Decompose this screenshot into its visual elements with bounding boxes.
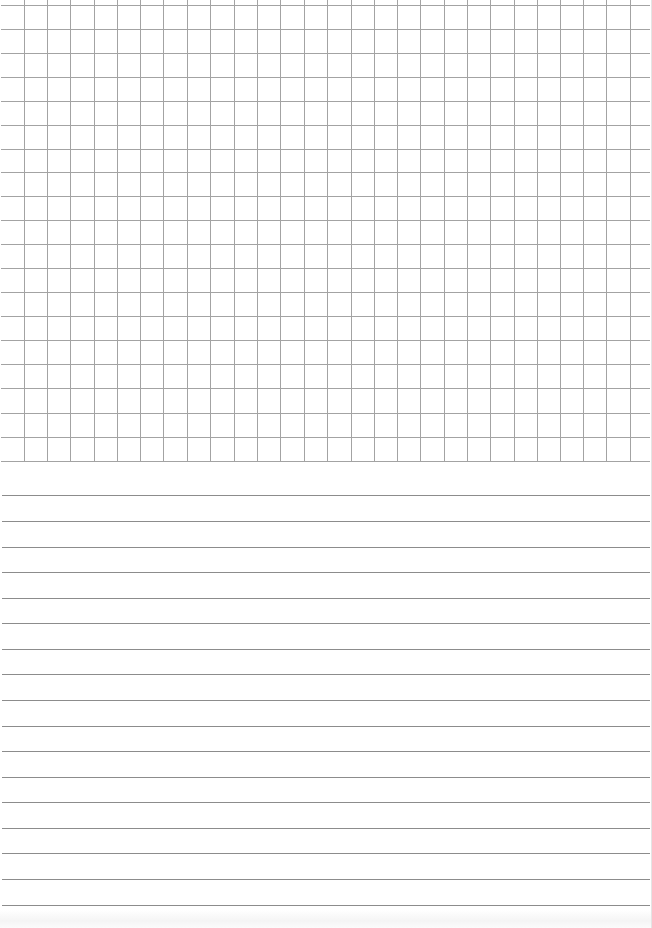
- grid-vertical-line: [24, 0, 25, 462]
- grid-vertical-line: [47, 0, 48, 462]
- grid-horizontal-line: [1, 77, 650, 78]
- grid-horizontal-line: [1, 437, 650, 438]
- ruled-line: [2, 674, 650, 675]
- grid-vertical-line: [304, 0, 305, 462]
- grid-vertical-line: [187, 0, 188, 462]
- grid-vertical-line: [467, 0, 468, 462]
- ruled-line: [2, 802, 650, 803]
- grid-vertical-line: [560, 0, 561, 462]
- grid-vertical-line: [351, 0, 352, 462]
- grid-vertical-line: [234, 0, 235, 462]
- ruled-line: [2, 649, 650, 650]
- grid-vertical-line: [606, 0, 607, 462]
- grid-horizontal-line: [1, 364, 650, 365]
- grid-vertical-line: [140, 0, 141, 462]
- grid-horizontal-line: [1, 196, 650, 197]
- grid-horizontal-line: [1, 220, 650, 221]
- ruled-line: [2, 853, 650, 854]
- grid-vertical-line: [583, 0, 584, 462]
- graph-paper-grid: [0, 0, 652, 462]
- ruled-line: [2, 495, 650, 496]
- ruled-lines-area: [0, 462, 652, 928]
- ruled-line: [2, 547, 650, 548]
- grid-horizontal-line: [1, 244, 650, 245]
- grid-horizontal-line: [1, 125, 650, 126]
- grid-vertical-line: [280, 0, 281, 462]
- ruled-line: [2, 521, 650, 522]
- grid-horizontal-line: [1, 388, 650, 389]
- grid-horizontal-line: [1, 53, 650, 54]
- grid-horizontal-line: [1, 149, 650, 150]
- ruled-line: [2, 572, 650, 573]
- grid-vertical-line: [490, 0, 491, 462]
- grid-horizontal-line: [1, 292, 650, 293]
- notebook-page: [0, 0, 652, 928]
- grid-vertical-line: [327, 0, 328, 462]
- grid-vertical-line: [94, 0, 95, 462]
- ruled-line: [2, 879, 650, 880]
- ruled-line: [2, 700, 650, 701]
- ruled-line: [2, 905, 650, 906]
- grid-vertical-line: [117, 0, 118, 462]
- grid-horizontal-line: [1, 316, 650, 317]
- ruled-line: [2, 598, 650, 599]
- grid-horizontal-line: [1, 5, 650, 6]
- grid-vertical-line: [537, 0, 538, 462]
- grid-vertical-line: [397, 0, 398, 462]
- ruled-line: [2, 726, 650, 727]
- grid-vertical-line: [210, 0, 211, 462]
- ruled-line: [2, 828, 650, 829]
- grid-vertical-line: [70, 0, 71, 462]
- grid-horizontal-line: [1, 413, 650, 414]
- grid-horizontal-line: [1, 29, 650, 30]
- grid-horizontal-line: [1, 268, 650, 269]
- grid-vertical-line: [514, 0, 515, 462]
- grid-vertical-line: [630, 0, 631, 462]
- grid-horizontal-line: [1, 172, 650, 173]
- grid-vertical-line: [420, 0, 421, 462]
- ruled-line: [2, 777, 650, 778]
- scan-artifact-strip: [0, 910, 652, 928]
- ruled-line: [2, 751, 650, 752]
- grid-vertical-line: [163, 0, 164, 462]
- grid-vertical-line: [257, 0, 258, 462]
- grid-vertical-line: [444, 0, 445, 462]
- grid-horizontal-line: [1, 340, 650, 341]
- grid-vertical-line: [374, 0, 375, 462]
- ruled-line: [2, 623, 650, 624]
- grid-horizontal-line: [1, 101, 650, 102]
